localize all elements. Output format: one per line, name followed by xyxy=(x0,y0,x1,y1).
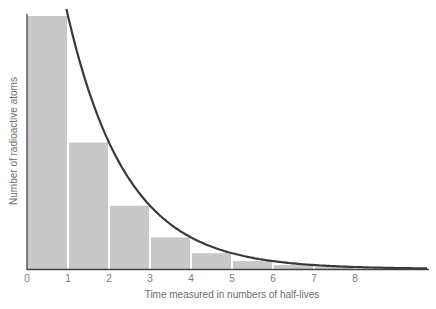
x-tick-4: 4 xyxy=(188,273,194,284)
x-tick-5: 5 xyxy=(229,273,235,284)
x-tick-labels: 012345678 xyxy=(24,273,358,284)
x-tick-6: 6 xyxy=(270,273,276,284)
x-tick-1: 1 xyxy=(65,273,71,284)
bar-0-1 xyxy=(27,16,67,269)
bar-1-2 xyxy=(69,143,108,270)
x-tick-2: 2 xyxy=(106,273,112,284)
y-axis-label: Number of radioactive atoms xyxy=(8,77,19,205)
bar-2-3 xyxy=(110,206,149,269)
x-tick-0: 0 xyxy=(24,273,30,284)
bar-5-6 xyxy=(233,261,272,269)
bar-4-5 xyxy=(192,253,231,269)
x-tick-3: 3 xyxy=(147,273,153,284)
x-tick-8: 8 xyxy=(352,273,358,284)
x-axis-label: Time measured in numbers of half-lives xyxy=(145,289,320,300)
bar-3-4 xyxy=(151,237,190,269)
bars-group xyxy=(27,16,354,269)
x-tick-7: 7 xyxy=(311,273,317,284)
decay-chart: 012345678 Time measured in numbers of ha… xyxy=(0,0,436,309)
